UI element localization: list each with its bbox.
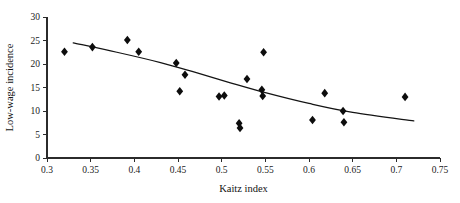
data-point-18 <box>341 118 348 127</box>
x-tick-label-8: 0.7 <box>390 165 402 175</box>
x-tick-label-5: 0.55 <box>257 165 274 175</box>
y-tick-label-5: 25 <box>31 36 41 46</box>
scatter-plot-svg: 0510152025300.30.350.40.450.50.550.60.65… <box>0 0 460 203</box>
data-point-6 <box>182 71 189 80</box>
data-point-16 <box>321 89 328 98</box>
data-point-5 <box>176 87 183 96</box>
chart-figure: 0510152025300.30.350.40.450.50.550.60.65… <box>0 0 460 203</box>
data-point-3 <box>135 47 142 56</box>
data-point-11 <box>244 75 251 84</box>
y-axis-title: Low-wage incidence <box>4 43 15 131</box>
x-tick-label-3: 0.45 <box>170 165 187 175</box>
data-point-19 <box>402 93 409 102</box>
data-point-0 <box>61 47 68 56</box>
x-tick-label-9: 0.75 <box>432 165 449 175</box>
data-point-1 <box>89 43 96 52</box>
ticks-group: 0510152025300.30.350.40.450.50.550.60.65… <box>31 12 449 175</box>
y-tick-label-0: 0 <box>35 153 40 163</box>
y-tick-label-3: 15 <box>31 83 41 93</box>
data-point-12 <box>260 48 267 57</box>
x-tick-label-7: 0.65 <box>344 165 361 175</box>
y-tick-label-2: 10 <box>31 106 41 116</box>
trend-line <box>73 43 414 121</box>
x-tick-label-2: 0.4 <box>128 165 140 175</box>
y-tick-label-6: 30 <box>31 12 41 22</box>
data-point-15 <box>309 116 316 125</box>
data-point-2 <box>124 36 131 45</box>
y-tick-label-4: 20 <box>31 59 41 69</box>
x-tick-label-6: 0.6 <box>303 165 315 175</box>
x-tick-label-0: 0.3 <box>41 165 53 175</box>
data-point-8 <box>221 91 228 100</box>
trend-line-path <box>73 43 414 121</box>
y-tick-label-1: 5 <box>35 130 40 140</box>
data-point-17 <box>340 107 347 116</box>
x-tick-label-1: 0.35 <box>82 165 99 175</box>
data-point-7 <box>216 92 223 101</box>
axes-group <box>47 17 440 158</box>
x-axis-title: Kaitz index <box>219 183 268 194</box>
x-tick-label-4: 0.5 <box>216 165 228 175</box>
